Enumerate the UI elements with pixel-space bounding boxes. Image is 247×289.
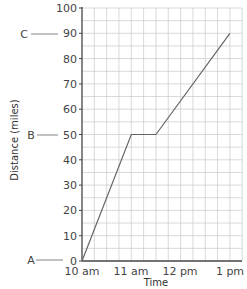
y-tick-label: 40 [63, 154, 77, 167]
svg-text:B: B [27, 129, 35, 142]
y-tick-label: 10 [63, 230, 77, 243]
distance-time-chart: 0102030405060708090100 10 am 11 am 12 pm… [0, 0, 247, 289]
svg-text:C: C [20, 28, 28, 41]
grid-lines [82, 8, 242, 261]
annotation-a: A [27, 254, 63, 267]
y-tick-label: 100 [56, 2, 77, 15]
x-tick-label: 10 am [65, 265, 100, 278]
y-tick-label: 80 [63, 53, 77, 66]
y-tick-label: 90 [63, 27, 77, 40]
annotation-c: C [20, 28, 58, 41]
y-tick-label: 30 [63, 179, 77, 192]
x-tick-label: 1 pm [216, 265, 244, 278]
x-axis-title: Time [143, 277, 168, 288]
y-axis-ticks: 0102030405060708090100 [56, 2, 82, 268]
svg-text:A: A [27, 254, 35, 267]
y-axis-title: Distance (miles) [9, 99, 20, 180]
y-tick-label: 50 [63, 129, 77, 142]
y-tick-label: 70 [63, 78, 77, 91]
y-tick-label: 60 [63, 103, 77, 116]
annotation-b: B [27, 129, 58, 142]
y-tick-label: 20 [63, 204, 77, 217]
